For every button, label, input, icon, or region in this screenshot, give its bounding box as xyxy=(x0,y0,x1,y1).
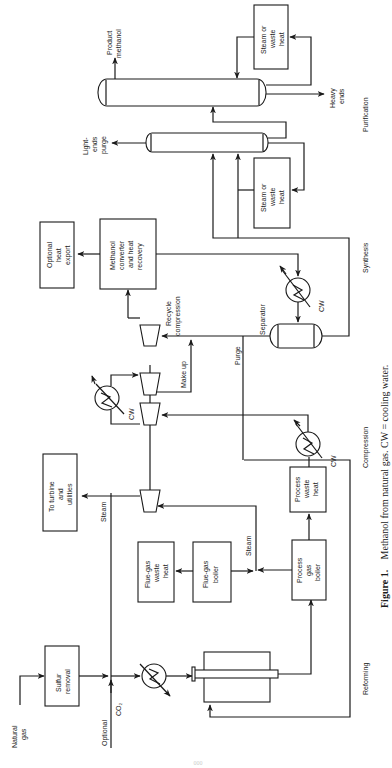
reformer-furnace xyxy=(192,652,278,702)
svg-text:methanol: methanol xyxy=(115,29,122,58)
svg-text:waste: waste xyxy=(269,188,276,207)
cw-condenser-icon xyxy=(280,266,310,307)
process-gas-boiler-label: Process xyxy=(296,557,303,583)
heavy-ends-label: Heavy xyxy=(329,88,337,108)
page-number: 000 xyxy=(194,760,203,766)
intercooler-icon xyxy=(92,376,124,414)
svg-text:gas: gas xyxy=(20,728,28,740)
svg-text:heat: heat xyxy=(278,32,285,46)
to-turbine-label: To turbine xyxy=(48,481,55,512)
svg-text:compression: compression xyxy=(174,296,182,336)
svg-text:removal: removal xyxy=(64,669,71,694)
natural-gas-label: Natural xyxy=(11,725,18,748)
svg-text:and: and xyxy=(57,488,64,500)
svg-text:heat: heat xyxy=(278,190,285,204)
separator-label: Separator xyxy=(259,304,267,335)
svg-text:converter: converter xyxy=(118,240,125,270)
syngas-to-compressor xyxy=(162,415,308,432)
svg-text:waste: waste xyxy=(269,30,276,49)
figure-caption: Figure 1. Methanol from natural gas. CW … xyxy=(374,365,391,608)
purge-label: Purge xyxy=(234,346,242,365)
product-column xyxy=(98,79,266,106)
steam-label-1: Steam xyxy=(100,502,107,522)
svg-text:purge: purge xyxy=(100,136,108,154)
recycle-compressor-icon xyxy=(140,325,160,346)
sulfur-removal-label: Sulfur xyxy=(55,673,62,692)
steam-label-2: Steam xyxy=(245,536,252,556)
svg-text:waste: waste xyxy=(153,564,160,583)
svg-text:and heat: and heat xyxy=(127,241,134,268)
svg-text:heat: heat xyxy=(162,564,169,578)
product-methanol-label: Product xyxy=(106,31,113,55)
reforming-label: Reforming xyxy=(362,663,370,695)
reformer-to-pgb xyxy=(278,600,311,674)
purification-label: Purification xyxy=(362,97,369,132)
cw-label-1: CW xyxy=(318,300,325,312)
svg-text:heat: heat xyxy=(55,248,62,262)
optional-co2-label: Optional xyxy=(101,719,109,746)
make-up-label: Make up xyxy=(180,361,188,388)
svg-text:boiler: boiler xyxy=(212,565,219,583)
svg-text:ends: ends xyxy=(338,88,345,104)
cw-label-2: CW xyxy=(128,408,135,420)
flue-gas-waste-heat-label: Flue-gas xyxy=(144,560,152,588)
steam-waste-heat-label-1: Steam or xyxy=(260,25,267,54)
sulfur-removal-box xyxy=(45,646,79,706)
steam-waste-heat-label-2: Steam or xyxy=(260,183,267,212)
svg-text:ends: ends xyxy=(91,136,98,152)
light-ends-column xyxy=(146,133,268,152)
steam-turbine-icon xyxy=(140,490,160,512)
separator-vessel xyxy=(270,324,322,348)
methanol-process-flow-diagram: Natural gas Sulfur removal Optional CO₂ … xyxy=(0,0,392,768)
svg-text:CO₂: CO₂ xyxy=(115,703,122,717)
light-ends-purge-label: Light- xyxy=(82,137,90,155)
recycle-compression-label: Recycle xyxy=(165,301,173,326)
svg-text:heat: heat xyxy=(312,482,319,496)
svg-text:gas: gas xyxy=(305,564,313,576)
compression-label: Compression xyxy=(362,427,370,468)
flue-gas-boiler-label: Flue-gas xyxy=(202,560,210,588)
natural-gas-line xyxy=(20,676,44,705)
optional-heat-export-label: Optional xyxy=(46,241,54,268)
process-waste-heat-label: Process xyxy=(294,476,301,502)
svg-text:waste: waste xyxy=(303,480,310,499)
methanol-converter-label: Methanol xyxy=(109,241,116,270)
compressor-stage-1-icon xyxy=(140,403,160,425)
cw-label-3: CW xyxy=(330,455,337,467)
synthesis-label: Synthesis xyxy=(362,242,370,273)
svg-text:recovery: recovery xyxy=(136,243,144,270)
svg-text:export: export xyxy=(64,245,72,265)
svg-text:boiler: boiler xyxy=(314,563,321,581)
preheater-exchanger-icon xyxy=(140,664,170,696)
svg-text:utilities: utilities xyxy=(66,483,73,505)
